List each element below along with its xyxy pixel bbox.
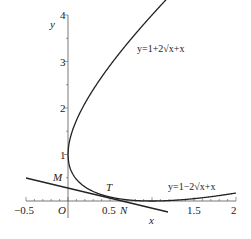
tick-label-y-1: 1 xyxy=(60,149,66,161)
upper-curve-label: y=1+2√x+x xyxy=(137,43,184,54)
tick-label-x-15: 1.5 xyxy=(187,204,201,216)
tick-label-x-2: 2 xyxy=(231,204,237,216)
y-axis-label: y xyxy=(49,18,55,30)
x-axis-label: x xyxy=(148,214,154,226)
tick-label-y-4: 4 xyxy=(60,9,66,21)
point-t-label: T xyxy=(106,181,113,193)
point-n-label: N xyxy=(119,204,128,216)
tick-label-y-2: 2 xyxy=(60,102,66,114)
tangent-line xyxy=(26,178,168,212)
point-m-label: M xyxy=(52,171,63,183)
tick-label-y-3: 3 xyxy=(60,56,66,68)
tick-label-x-neg05: −0.5 xyxy=(14,204,34,216)
tick-label-x-05: 0.5 xyxy=(102,204,116,216)
function-plot: −0.5 O 0.5 N x 1.5 2 4 3 2 1 y M T y=1+2… xyxy=(0,0,251,239)
lower-curve-label: y=1−2√x+x xyxy=(168,181,215,192)
origin-label: O xyxy=(58,204,66,216)
upper-curve xyxy=(68,0,173,155)
